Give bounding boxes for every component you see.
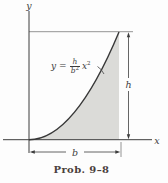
b-dim-arrow-right — [115, 150, 120, 153]
y-axis-label: y — [25, 0, 32, 11]
figure-caption: Prob. 9–8 — [0, 164, 163, 175]
curve-equation: y = h b2 x2 — [51, 58, 91, 76]
equation-lhs: y — [51, 62, 56, 71]
b-dim-arrow-left — [30, 150, 35, 153]
b-dimension-label: b — [72, 147, 78, 158]
equation-fraction: h b2 — [70, 58, 80, 76]
equation-term: x2 — [82, 62, 91, 71]
equation-denominator-exponent: 2 — [75, 65, 79, 71]
shaded-region — [29, 32, 119, 140]
equation-term-exponent: 2 — [87, 60, 91, 66]
equation-denominator: b2 — [70, 66, 80, 75]
h-dim-arrow-bottom — [127, 134, 130, 139]
figure-prob-9-8: y x h b y = h b2 x2 Prob. 9–8 — [0, 0, 168, 183]
x-axis-label: x — [154, 135, 160, 146]
parabola-area-diagram: y x h b — [0, 0, 168, 183]
h-dim-arrow-top — [127, 32, 130, 37]
h-dimension-label: h — [125, 79, 131, 90]
equation-equals: = — [58, 62, 68, 71]
